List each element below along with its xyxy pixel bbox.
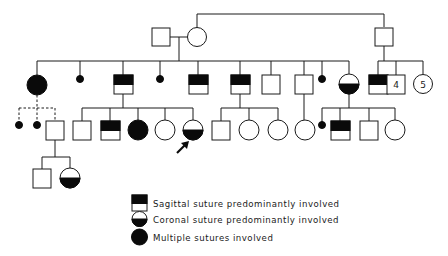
male-unaffected <box>360 121 378 140</box>
female-unaffected <box>385 120 405 140</box>
connector-lines <box>19 14 423 169</box>
female-sibship-count: 5 <box>414 75 433 94</box>
miscarriage-dot <box>16 122 23 129</box>
male-unaffected <box>73 121 91 140</box>
female-coronal <box>339 74 359 94</box>
male-sagittal <box>231 75 250 94</box>
miscarriage-dot <box>77 76 84 83</box>
legend-sagittal-label: Sagittal suture predominantly involved <box>153 199 339 209</box>
male-unaffected <box>152 28 170 46</box>
male-sagittal <box>369 75 388 94</box>
legend-coronal-symbol <box>132 212 147 227</box>
miscarriage-dot <box>319 122 326 129</box>
male-sagittal <box>331 121 350 140</box>
legend-multiple-label: Multiple sutures involved <box>153 233 273 243</box>
relation-line <box>197 14 384 28</box>
male-sagittal <box>101 121 120 140</box>
generation-2: 4 5 <box>27 74 433 95</box>
miscarriage-dot <box>157 76 164 83</box>
generation-3 <box>16 120 406 153</box>
proband-female-coronal <box>183 120 203 140</box>
pedigree-diagram: 4 5 <box>0 0 448 256</box>
female-unaffected <box>239 120 259 140</box>
miscarriage-dot <box>34 122 41 129</box>
male-sagittal <box>114 75 133 94</box>
female-multiple-sutures <box>27 75 47 95</box>
miscarriage-dot <box>319 76 326 83</box>
male-unaffected <box>262 75 280 94</box>
legend-multiple-symbol <box>132 229 148 245</box>
female-unaffected <box>295 120 315 140</box>
female-multiple-sutures <box>128 120 148 140</box>
legend: Sagittal suture predominantly involved C… <box>132 195 340 245</box>
female-unaffected <box>188 28 207 47</box>
male-unaffected <box>33 169 51 188</box>
count-label: 5 <box>420 80 426 90</box>
male-unaffected <box>375 28 393 46</box>
count-label: 4 <box>393 80 399 90</box>
male-unaffected <box>46 121 64 140</box>
male-sagittal <box>189 75 208 94</box>
legend-coronal-label: Coronal suture predominantly involved <box>153 215 339 225</box>
generation-1 <box>152 28 393 47</box>
male-sibship-count: 4 <box>387 75 405 94</box>
female-coronal <box>60 168 80 188</box>
male-unaffected <box>212 121 230 140</box>
legend-sagittal-symbol <box>132 195 147 211</box>
female-unaffected <box>155 120 175 140</box>
generation-4 <box>33 168 80 188</box>
female-unaffected <box>268 120 288 140</box>
proband-arrow-icon <box>177 141 189 153</box>
male-unaffected <box>295 75 313 94</box>
